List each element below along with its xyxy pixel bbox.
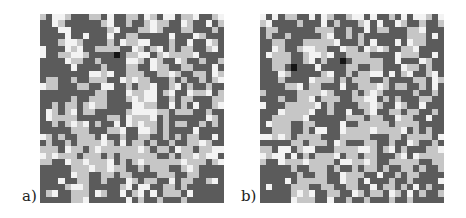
panel-label-a: a) xyxy=(22,187,37,205)
lattice-grid-a xyxy=(40,14,224,203)
dark-gray-cell xyxy=(438,197,444,203)
panel-a: a) xyxy=(0,0,233,218)
lattice-grid-b xyxy=(260,14,444,203)
dark-gray-cell xyxy=(218,197,224,203)
panel-label-b: b) xyxy=(241,187,256,205)
panel-b: b) xyxy=(233,0,466,218)
